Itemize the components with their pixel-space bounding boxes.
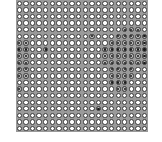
empty-cell[interactable] (75, 33, 82, 40)
empty-cell[interactable] (95, 112, 102, 119)
filled-cell[interactable] (128, 53, 135, 60)
empty-cell[interactable] (95, 40, 102, 47)
empty-cell[interactable] (128, 0, 135, 7)
empty-cell[interactable] (95, 92, 102, 99)
empty-cell[interactable] (89, 7, 96, 14)
empty-cell[interactable] (75, 0, 82, 7)
empty-cell[interactable] (122, 99, 129, 106)
empty-cell[interactable] (82, 92, 89, 99)
empty-cell[interactable] (23, 106, 30, 113)
empty-cell[interactable] (115, 0, 122, 7)
empty-cell[interactable] (89, 106, 96, 113)
filled-cell[interactable] (16, 59, 23, 66)
empty-cell[interactable] (23, 112, 30, 119)
empty-cell[interactable] (23, 99, 30, 106)
filled-cell[interactable] (122, 59, 129, 66)
filled-cell[interactable] (115, 86, 122, 93)
empty-cell[interactable] (75, 26, 82, 33)
empty-cell[interactable] (82, 86, 89, 93)
filled-cell[interactable] (122, 79, 129, 86)
empty-cell[interactable] (95, 66, 102, 73)
empty-cell[interactable] (141, 92, 148, 99)
empty-cell[interactable] (42, 99, 49, 106)
empty-cell[interactable] (128, 106, 135, 113)
empty-cell[interactable] (102, 13, 109, 20)
empty-cell[interactable] (62, 99, 69, 106)
empty-cell[interactable] (56, 53, 63, 60)
empty-cell[interactable] (69, 33, 76, 40)
empty-cell[interactable] (141, 79, 148, 86)
filled-cell[interactable] (122, 40, 129, 47)
empty-cell[interactable] (69, 86, 76, 93)
filled-cell[interactable] (102, 59, 109, 66)
empty-cell[interactable] (49, 106, 56, 113)
empty-cell[interactable] (23, 79, 30, 86)
empty-cell[interactable] (75, 112, 82, 119)
filled-cell[interactable] (115, 40, 122, 47)
empty-cell[interactable] (108, 86, 115, 93)
empty-cell[interactable] (69, 40, 76, 47)
empty-cell[interactable] (75, 119, 82, 126)
filled-cell[interactable] (16, 66, 23, 73)
empty-cell[interactable] (23, 0, 30, 7)
empty-cell[interactable] (62, 66, 69, 73)
empty-cell[interactable] (135, 20, 142, 27)
empty-cell[interactable] (23, 13, 30, 20)
empty-cell[interactable] (89, 46, 96, 53)
filled-cell[interactable] (16, 73, 23, 80)
empty-cell[interactable] (95, 20, 102, 27)
empty-cell[interactable] (75, 99, 82, 106)
empty-cell[interactable] (89, 53, 96, 60)
empty-cell[interactable] (56, 26, 63, 33)
filled-cell[interactable] (122, 33, 129, 40)
empty-cell[interactable] (89, 119, 96, 126)
empty-cell[interactable] (122, 119, 129, 126)
empty-cell[interactable] (29, 46, 36, 53)
empty-cell[interactable] (122, 112, 129, 119)
empty-cell[interactable] (23, 86, 30, 93)
empty-cell[interactable] (49, 40, 56, 47)
empty-cell[interactable] (49, 20, 56, 27)
filled-cell[interactable] (122, 73, 129, 80)
empty-cell[interactable] (82, 66, 89, 73)
filled-cell[interactable] (89, 33, 96, 40)
empty-cell[interactable] (42, 59, 49, 66)
empty-cell[interactable] (56, 92, 63, 99)
filled-cell[interactable] (135, 59, 142, 66)
filled-cell[interactable] (108, 40, 115, 47)
empty-cell[interactable] (36, 53, 43, 60)
empty-cell[interactable] (69, 13, 76, 20)
empty-cell[interactable] (89, 26, 96, 33)
empty-cell[interactable] (49, 33, 56, 40)
empty-cell[interactable] (49, 0, 56, 7)
empty-cell[interactable] (135, 66, 142, 73)
empty-cell[interactable] (89, 66, 96, 73)
filled-cell[interactable] (122, 26, 129, 33)
empty-cell[interactable] (23, 125, 30, 132)
empty-cell[interactable] (42, 13, 49, 20)
empty-cell[interactable] (102, 92, 109, 99)
filled-cell[interactable] (102, 46, 109, 53)
empty-cell[interactable] (102, 73, 109, 80)
empty-cell[interactable] (102, 26, 109, 33)
empty-cell[interactable] (82, 79, 89, 86)
empty-cell[interactable] (135, 125, 142, 132)
empty-cell[interactable] (141, 73, 148, 80)
empty-cell[interactable] (62, 119, 69, 126)
empty-cell[interactable] (75, 59, 82, 66)
empty-cell[interactable] (82, 106, 89, 113)
empty-cell[interactable] (95, 73, 102, 80)
empty-cell[interactable] (69, 46, 76, 53)
empty-cell[interactable] (115, 20, 122, 27)
empty-cell[interactable] (108, 26, 115, 33)
empty-cell[interactable] (56, 59, 63, 66)
empty-cell[interactable] (56, 112, 63, 119)
filled-cell[interactable] (115, 59, 122, 66)
filled-cell[interactable] (23, 66, 30, 73)
empty-cell[interactable] (69, 26, 76, 33)
empty-cell[interactable] (108, 119, 115, 126)
empty-cell[interactable] (69, 59, 76, 66)
empty-cell[interactable] (16, 7, 23, 14)
empty-cell[interactable] (128, 125, 135, 132)
empty-cell[interactable] (102, 20, 109, 27)
